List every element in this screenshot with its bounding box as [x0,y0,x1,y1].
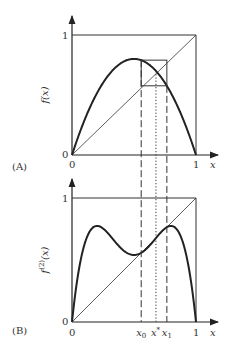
panel-b-y-label: f(2)(x) [38,246,50,274]
panel-b-x-label: x [210,327,216,338]
panel-b: (B) 0 1 0 1 x f(2)(x) x0x*x1 [12,179,218,340]
point-label-2: x1 [162,327,172,340]
bifurcation-figure: (A) 0 1 0 1 x f(x) (B) 0 1 0 1 x f(2)(x)… [0,0,233,357]
panel-a-y-label: f(x) [39,86,50,104]
panel-b-x-tick-1: 1 [193,327,199,338]
panel-a-x-tick-1: 1 [193,159,199,170]
panel-b-tag: (B) [12,325,27,336]
point-label-1: x* [151,326,161,338]
panel-a-two-cycle-box [141,60,167,86]
panel-a-diagonal [72,35,196,155]
panel-b-second-iterate-curve [72,226,196,322]
panel-a-tag: (A) [12,161,27,172]
panel-a-x-tick-0: 0 [69,159,75,170]
panel-b-y-label-sup: (2) [38,260,46,270]
guide-lines [141,60,167,322]
panel-b-point-labels: x0x*x1 [136,326,172,340]
point-label-0: x0 [136,327,146,340]
panel-a-map-curve [72,59,196,155]
panel-a: (A) 0 1 0 1 x f(x) [12,16,218,172]
panel-b-x-tick-0: 0 [69,327,75,338]
panel-b-y-label-arg: (x) [39,246,50,260]
panel-a-x-label: x [210,159,216,170]
panel-a-y-tick-1: 1 [62,30,68,41]
panel-a-y-tick-0: 0 [62,149,68,160]
panel-b-y-tick-0: 0 [62,316,68,327]
panel-b-diagonal [72,198,196,322]
panel-b-y-tick-1: 1 [62,193,68,204]
